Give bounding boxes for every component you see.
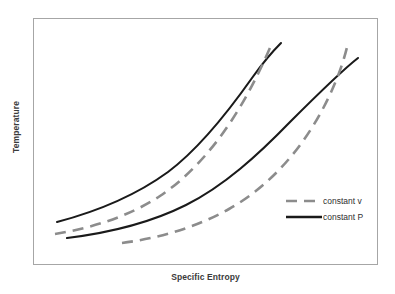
legend-label-constant-v: constant v <box>323 196 362 206</box>
chart-figure: constant v constant P Temperature Specif… <box>0 0 395 294</box>
plot-area-frame <box>33 18 378 265</box>
legend-row-constant-v: constant v <box>286 193 378 209</box>
legend-solid-line-icon <box>286 212 322 222</box>
legend-dashed-line-icon <box>286 196 322 206</box>
legend-label-constant-p: constant P <box>323 212 363 222</box>
legend-row-constant-p: constant P <box>286 209 378 225</box>
y-axis-label: Temperature <box>11 67 21 187</box>
chart-legend: constant v constant P <box>286 193 378 225</box>
x-axis-label: Specific Entropy <box>33 272 378 282</box>
